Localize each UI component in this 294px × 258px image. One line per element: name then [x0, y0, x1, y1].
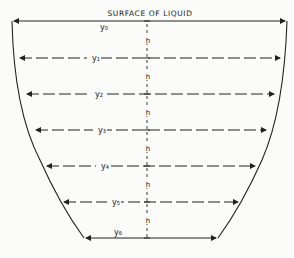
interval-h-label: h: [146, 217, 150, 225]
ordinate-label-3: y₃: [98, 126, 106, 135]
interval-h-label: h: [146, 145, 150, 153]
ordinate-label-6: y₆: [114, 228, 122, 237]
ordinate-label-5: y₅: [112, 198, 120, 207]
surface-of-liquid-label: SURFACE OF LIQUID: [107, 9, 192, 18]
vessel-cross-section-diagram: y₀y₁y₂y₃y₄y₅y₆ hhhhhh SURFACE OF LIQUID: [0, 0, 294, 258]
interval-h-label: h: [146, 109, 150, 117]
ordinate-label-0: y₀: [100, 23, 108, 32]
ordinate-label-2: y₂: [95, 90, 103, 99]
interval-h-label: h: [146, 181, 150, 189]
interval-h-label: h: [146, 37, 150, 45]
ordinate-lines: y₀y₁y₂y₃y₄y₅y₆: [14, 16, 285, 242]
ordinate-label-1: y₁: [92, 54, 100, 63]
ordinate-label-4: y₄: [101, 162, 109, 171]
interval-h-label: h: [146, 73, 150, 81]
